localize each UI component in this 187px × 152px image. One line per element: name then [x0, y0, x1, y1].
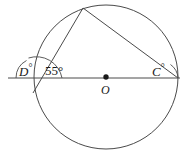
label-angle-55: 55°	[45, 64, 63, 77]
geometry-figure: D° 55° C° O	[0, 0, 187, 152]
label-angle-d: D°	[19, 63, 32, 78]
chord-apex-to-d	[33, 8, 83, 93]
center-point-dot	[103, 74, 108, 79]
degree-symbol-c: °	[161, 62, 165, 73]
label-center-o: O	[101, 84, 110, 96]
degree-symbol-d: °	[28, 62, 32, 73]
label-angle-c: C°	[152, 63, 165, 78]
